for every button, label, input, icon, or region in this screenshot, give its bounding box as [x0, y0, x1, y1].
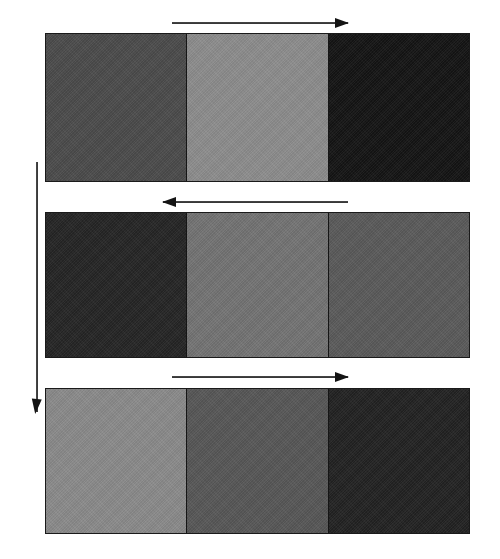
arrow-head-left-icon — [162, 197, 176, 207]
row-3-direction-arrow — [172, 370, 348, 384]
arrow-shaft — [163, 201, 348, 203]
row-2-segment-1 — [46, 213, 186, 357]
row-1-segment-2 — [186, 34, 327, 181]
row-2-segment-2 — [186, 213, 327, 357]
strip-row-1 — [45, 33, 470, 182]
row-2-segment-3 — [328, 213, 469, 357]
arrow-head-right-icon — [335, 18, 349, 28]
strip-row-3 — [45, 388, 470, 534]
row-1-direction-arrow — [172, 16, 348, 30]
row-3-segment-1 — [46, 389, 186, 533]
row-3-segment-2 — [186, 389, 327, 533]
arrow-head-right-icon — [335, 372, 349, 382]
strip-row-2 — [45, 212, 470, 358]
row-1-segment-3 — [328, 34, 469, 181]
row-3-segment-3 — [328, 389, 469, 533]
time-progression-arrow — [30, 162, 44, 412]
arrow-head-down-icon — [30, 399, 42, 415]
row-2-direction-arrow — [163, 195, 348, 209]
arrow-shaft — [36, 162, 38, 412]
figure-canvas — [0, 0, 500, 559]
row-1-segment-1 — [46, 34, 186, 181]
arrow-shaft — [172, 22, 348, 24]
arrow-shaft — [172, 376, 348, 378]
